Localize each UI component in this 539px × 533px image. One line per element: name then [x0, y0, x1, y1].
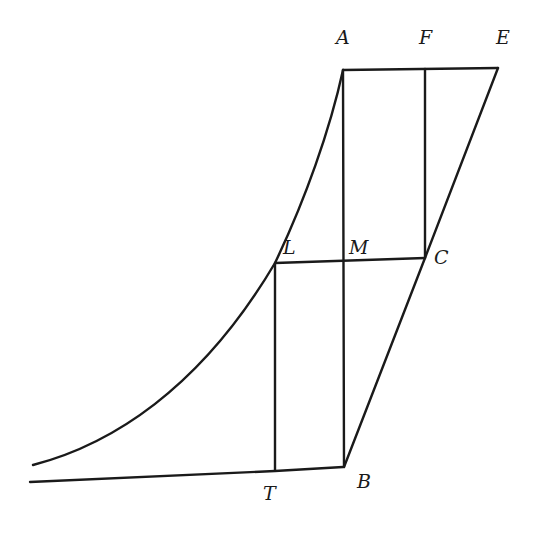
diagram-figure	[0, 0, 539, 533]
label-A: A	[336, 28, 350, 47]
segment-EB	[344, 68, 498, 467]
segment-LC	[275, 258, 425, 263]
segment-AB	[343, 70, 344, 467]
label-M: M	[349, 238, 368, 257]
label-F: F	[419, 28, 432, 47]
geometry-diagram: A F E L M C T B	[0, 0, 539, 533]
label-C: C	[434, 248, 449, 267]
label-T: T	[263, 484, 276, 503]
segment-AE	[343, 68, 498, 70]
label-B: B	[357, 472, 371, 491]
curve-line	[33, 70, 343, 465]
label-L: L	[283, 238, 296, 257]
label-E: E	[496, 28, 510, 47]
baseline	[30, 467, 343, 482]
